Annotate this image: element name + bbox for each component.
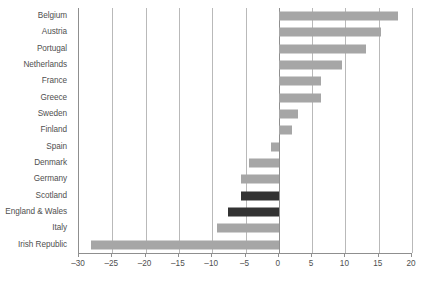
category-label: France — [0, 73, 72, 89]
tick-label: –25 — [104, 259, 118, 269]
tick-label: 5 — [309, 259, 314, 269]
tick-mark — [411, 253, 412, 257]
category-label: Austria — [0, 24, 72, 40]
tick-label: –5 — [240, 259, 249, 269]
category-label: Irish Republic — [0, 237, 72, 253]
bar-row — [79, 171, 412, 187]
bar — [279, 126, 292, 135]
x-axis-tick-labels: –30–25–20–15–10–505101520 — [78, 259, 411, 273]
bar-row — [79, 57, 412, 73]
category-label: Italy — [0, 220, 72, 236]
bar — [271, 142, 278, 151]
tick-mark — [78, 253, 79, 257]
tick-mark — [145, 253, 146, 257]
tick-mark — [245, 253, 246, 257]
bar-chart: BelgiumAustriaPortugalNetherlandsFranceG… — [0, 0, 428, 294]
category-axis-labels: BelgiumAustriaPortugalNetherlandsFranceG… — [0, 8, 72, 253]
bar-row — [79, 204, 412, 220]
x-axis-tick-marks — [78, 253, 411, 258]
bar-row — [79, 188, 412, 204]
tick-mark — [278, 253, 279, 257]
tick-label: –15 — [171, 259, 185, 269]
bar — [279, 28, 381, 37]
bar-row — [79, 41, 412, 57]
category-label: England & Wales — [0, 204, 72, 220]
category-label: Portugal — [0, 41, 72, 57]
tick-label: –30 — [71, 259, 85, 269]
category-label: Germany — [0, 171, 72, 187]
category-label: Belgium — [0, 8, 72, 24]
bar — [249, 159, 279, 168]
bar — [241, 175, 279, 184]
bar — [279, 12, 398, 21]
bar-row — [79, 139, 412, 155]
category-label: Scotland — [0, 188, 72, 204]
tick-label: –10 — [204, 259, 218, 269]
bar-row — [79, 73, 412, 89]
bar — [241, 191, 279, 200]
tick-label: 15 — [373, 259, 382, 269]
bar-row — [79, 155, 412, 171]
bar — [91, 240, 279, 249]
bar — [279, 44, 366, 53]
category-label: Netherlands — [0, 57, 72, 73]
bar — [279, 61, 342, 70]
bar — [279, 77, 322, 86]
tick-mark — [111, 253, 112, 257]
tick-mark — [211, 253, 212, 257]
bar — [279, 93, 322, 102]
bar-row — [79, 220, 412, 236]
bar-row — [79, 8, 412, 24]
tick-label: 0 — [276, 259, 281, 269]
bar-row — [79, 237, 412, 253]
tick-label: 10 — [340, 259, 349, 269]
bar-row — [79, 90, 412, 106]
tick-mark — [378, 253, 379, 257]
category-label: Spain — [0, 139, 72, 155]
tick-mark — [178, 253, 179, 257]
tick-label: 20 — [406, 259, 415, 269]
bar — [217, 224, 279, 233]
gridline — [412, 8, 413, 253]
category-label: Denmark — [0, 155, 72, 171]
category-label: Greece — [0, 90, 72, 106]
category-label: Sweden — [0, 106, 72, 122]
bar — [228, 208, 279, 217]
bar — [279, 110, 298, 119]
bar-row — [79, 106, 412, 122]
tick-label: –20 — [138, 259, 152, 269]
tick-mark — [344, 253, 345, 257]
category-label: Finland — [0, 122, 72, 138]
tick-mark — [311, 253, 312, 257]
bars-layer — [79, 8, 412, 253]
bar-row — [79, 122, 412, 138]
plot-area — [78, 8, 412, 253]
bar-row — [79, 24, 412, 40]
